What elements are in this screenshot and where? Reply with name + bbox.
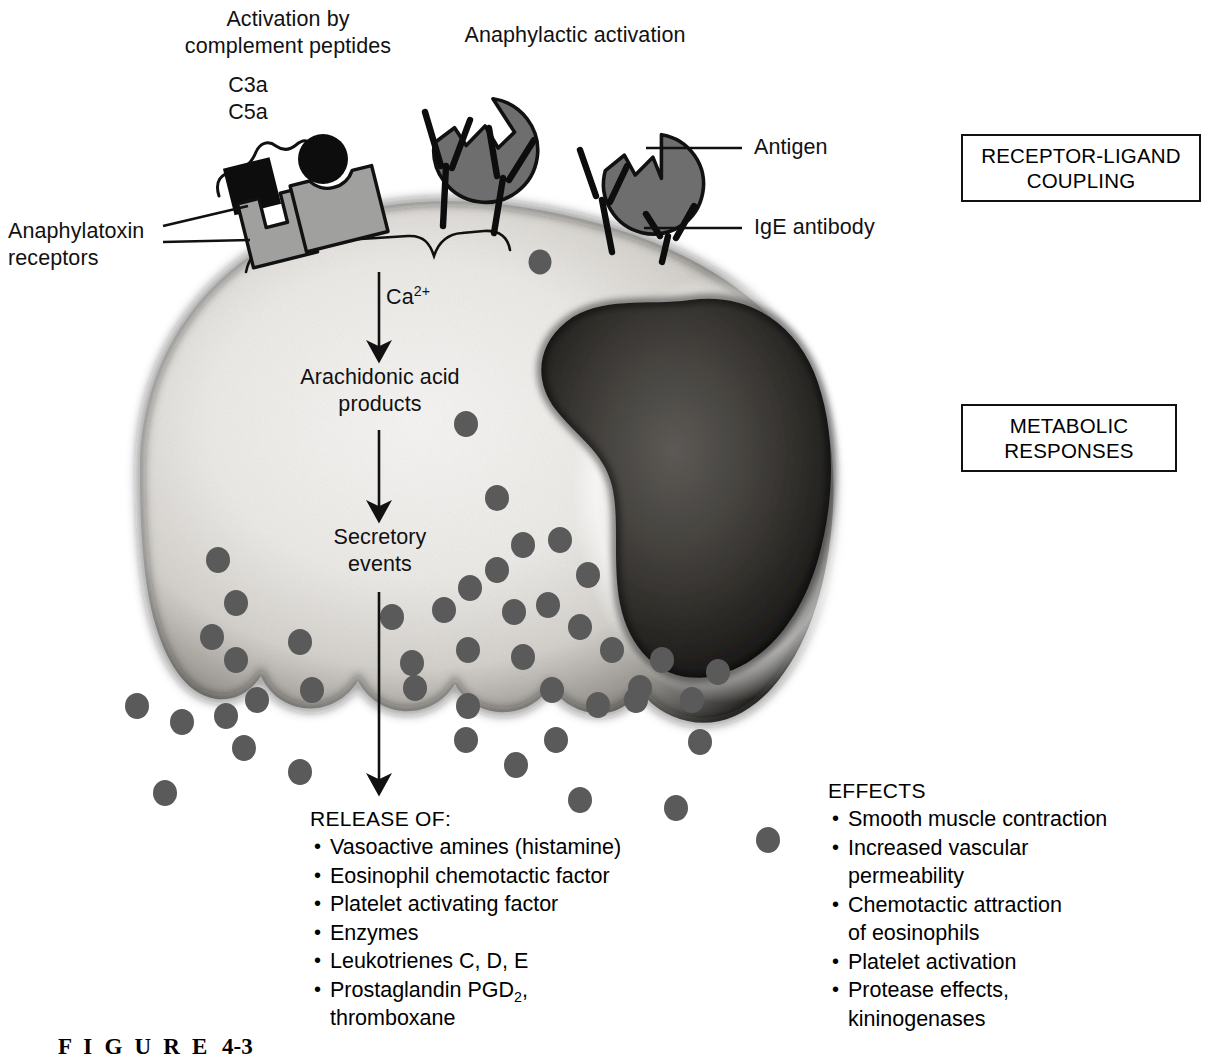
granule — [153, 780, 177, 806]
release-items: Vasoactive amines (histamine) Eosinophil… — [310, 833, 740, 1033]
release-heading: RELEASE OF: — [310, 806, 740, 832]
granule — [536, 592, 560, 618]
granule — [568, 614, 592, 640]
list-item: Increased vascular permeability — [828, 834, 1148, 891]
label-calcium: Ca2+ — [386, 284, 430, 311]
granule — [540, 677, 564, 703]
granule — [400, 650, 424, 676]
granule — [224, 590, 248, 616]
label-c3a: C3a — [210, 72, 286, 99]
heading-anaphylactic-activation: Anaphylactic activation — [430, 22, 720, 49]
granule — [458, 575, 482, 601]
granule — [288, 629, 312, 655]
granule — [403, 675, 427, 701]
granule — [456, 693, 480, 719]
granule — [485, 485, 509, 511]
granule — [380, 604, 404, 630]
ligand-labels: C3a C5a — [210, 72, 286, 126]
label-arachidonic-acid-products: Arachidonic acid products — [272, 364, 488, 418]
granule — [206, 547, 230, 573]
granule — [511, 644, 535, 670]
figure-canvas: Activation by complement peptides Anaphy… — [0, 0, 1218, 1056]
granule — [224, 647, 248, 673]
granule — [511, 532, 535, 558]
label-c5a: C5a — [210, 99, 286, 126]
box-metabolic-responses: METABOLIC RESPONSES — [961, 404, 1177, 472]
list-item: Protease effects, kininogenases — [828, 976, 1148, 1033]
granule — [600, 637, 624, 663]
granule — [650, 647, 674, 673]
granule — [432, 597, 456, 623]
granule — [485, 557, 509, 583]
heading-complement-activation: Activation by complement peptides — [182, 6, 394, 60]
granule — [232, 735, 256, 761]
granule — [688, 729, 712, 755]
granule — [170, 709, 194, 735]
figure-caption-label: F I G U R E — [58, 1034, 211, 1056]
effects-heading: EFFECTS — [828, 778, 1148, 804]
granule — [200, 624, 224, 650]
granule — [288, 759, 312, 785]
figure-caption: F I G U R E 4-3 — [58, 1034, 253, 1056]
list-item: Eosinophil chemotactic factor — [310, 862, 740, 891]
list-item-continuation: of eosinophils — [848, 919, 1148, 948]
granule — [454, 727, 478, 753]
list-item-continuation: permeability — [848, 862, 1148, 891]
granule — [504, 752, 528, 778]
granule — [624, 687, 648, 713]
granule — [706, 659, 730, 685]
list-item: Platelet activating factor — [310, 890, 740, 919]
ligand-circle-icon — [298, 134, 348, 184]
release-list: RELEASE OF: Vasoactive amines (histamine… — [310, 806, 740, 1033]
granule — [576, 562, 600, 588]
effects-items: Smooth muscle contraction Increased vasc… — [828, 805, 1148, 1033]
granule — [245, 687, 269, 713]
list-item: Chemotactic attraction of eosinophils — [828, 891, 1148, 948]
pgd2-subscript: 2 — [514, 989, 522, 1005]
list-item-continuation: kininogenases — [848, 1005, 1148, 1034]
figure-caption-number: 4-3 — [222, 1034, 253, 1056]
granule — [125, 693, 149, 719]
callout-antigen: Antigen — [754, 134, 828, 161]
granule — [586, 692, 610, 718]
granule — [300, 677, 324, 703]
effects-list: EFFECTS Smooth muscle contraction Increa… — [828, 778, 1148, 1033]
granule — [529, 250, 552, 275]
list-item: Enzymes — [310, 919, 740, 948]
callout-ige-antibody: IgE antibody — [754, 214, 875, 241]
granule — [544, 727, 568, 753]
granule — [456, 637, 480, 663]
list-item: Smooth muscle contraction — [828, 805, 1148, 834]
list-item: Leukotrienes C, D, E — [310, 947, 740, 976]
box-receptor-ligand-coupling: RECEPTOR-LIGAND COUPLING — [961, 134, 1201, 202]
label-secretory-events: Secretory events — [296, 524, 464, 578]
granule — [548, 527, 572, 553]
callout-anaphylatoxin-receptors: Anaphylatoxin receptors — [8, 218, 178, 272]
granule — [502, 599, 526, 625]
list-item: Platelet activation — [828, 948, 1148, 977]
calcium-charge: 2+ — [414, 283, 430, 299]
list-item: Vasoactive amines (histamine) — [310, 833, 740, 862]
granule — [680, 687, 704, 713]
granule — [756, 827, 780, 853]
list-item-continuation: thromboxane — [330, 1004, 740, 1033]
list-item: Prostaglandin PGD2, thromboxane — [310, 976, 740, 1033]
granule — [214, 703, 238, 729]
